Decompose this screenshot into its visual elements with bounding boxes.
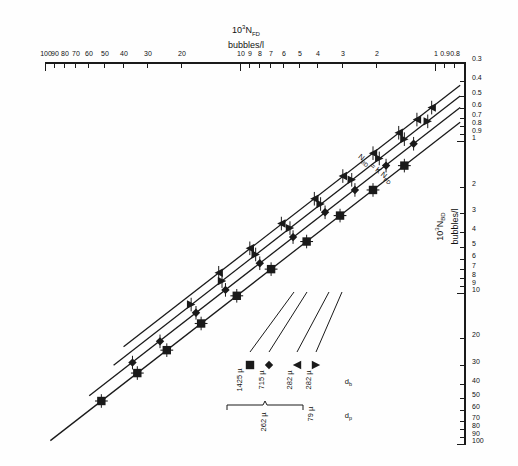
y-tick-label: 40 bbox=[472, 376, 480, 383]
y-tick-label: 90 bbox=[472, 430, 480, 437]
y-tick-label: 0.3 bbox=[472, 55, 482, 62]
x-tick-label: 9 bbox=[248, 50, 252, 57]
legend-marker-square-cross bbox=[243, 358, 257, 372]
y-tick-label: 0.8 bbox=[472, 119, 482, 126]
legend-db-value: 715 µ bbox=[258, 371, 266, 390]
x-title-units: bubbles/l bbox=[228, 40, 264, 50]
x-tick-label: 0.9 bbox=[440, 50, 450, 57]
rotated-figure: 0.80.9123456789102030405060708090100 0.3… bbox=[0, 0, 518, 466]
x-tick-label: 60 bbox=[85, 50, 93, 57]
legend-marker-diamond bbox=[262, 358, 276, 372]
y-tick-label: 60 bbox=[472, 403, 480, 410]
y-tick-label: 0.7 bbox=[472, 110, 482, 117]
y-tick-label: 100 bbox=[472, 437, 484, 444]
x-tick-label: 70 bbox=[72, 50, 80, 57]
y-tick-label: 80 bbox=[472, 422, 480, 429]
legend-dp-value: 79 µ bbox=[307, 407, 315, 422]
legend-header-db: db bbox=[345, 378, 352, 389]
y-tick-label: 70 bbox=[472, 413, 480, 420]
y-tick-label: 5 bbox=[472, 240, 476, 247]
y-tick-label: 2 bbox=[472, 179, 476, 186]
x-tick-label: 80 bbox=[61, 50, 69, 57]
legend-marker-triangle-right bbox=[309, 358, 323, 372]
legend: dbdp282 µ79 µ282 µ715 µ1425 µ262 µ bbox=[46, 62, 466, 444]
x-axis-title: 103NFD bubbles/l bbox=[146, 22, 346, 51]
y-tick-label: 8 bbox=[472, 270, 476, 277]
x-tick-label: 3 bbox=[341, 50, 345, 57]
x-title-sub: FD bbox=[252, 31, 260, 37]
y-tick-label: 3 bbox=[472, 206, 476, 213]
legend-marker-triangle-left bbox=[290, 358, 304, 372]
y-tick-label: 7 bbox=[472, 262, 476, 269]
y-tick-label: 0.6 bbox=[472, 100, 482, 107]
x-tick-label: 0.8 bbox=[450, 50, 460, 57]
y-tick-label: 4 bbox=[472, 225, 476, 232]
y-tick-label: 0.5 bbox=[472, 88, 482, 95]
y-tick-label: 10 bbox=[472, 285, 480, 292]
y-tick-label: 9 bbox=[472, 278, 476, 285]
y-tick-label: 50 bbox=[472, 391, 480, 398]
y-tick bbox=[457, 444, 466, 445]
x-tick-label: 40 bbox=[120, 50, 128, 57]
x-tick-label: 100 bbox=[40, 50, 52, 57]
y-tick-label: 30 bbox=[472, 357, 480, 364]
x-tick-label: 20 bbox=[178, 50, 186, 57]
x-tick-label: 7 bbox=[269, 50, 273, 57]
x-tick-label: 1 bbox=[434, 50, 438, 57]
figure-canvas: 0.80.9123456789102030405060708090100 0.3… bbox=[0, 0, 518, 466]
x-tick-label: 4 bbox=[317, 50, 321, 57]
plot-area: 0.80.9123456789102030405060708090100 0.3… bbox=[46, 62, 466, 444]
x-tick-label: 30 bbox=[144, 50, 152, 57]
x-tick-label: 8 bbox=[258, 50, 262, 57]
y-tick-label: 20 bbox=[472, 331, 480, 338]
x-tick-label: 6 bbox=[282, 50, 286, 57]
legend-db-value: 282 µ bbox=[305, 371, 313, 390]
x-tick-label: 50 bbox=[101, 50, 109, 57]
y-tick-label: 0.4 bbox=[472, 73, 482, 80]
x-tick-label: 5 bbox=[298, 50, 302, 57]
x-tick-label: 2 bbox=[375, 50, 379, 57]
legend-brace bbox=[223, 400, 305, 412]
y-tick-label: 1 bbox=[472, 134, 476, 141]
y-tick-label: 6 bbox=[472, 251, 476, 258]
x-tick-label: 10 bbox=[237, 50, 245, 57]
x-tick-label: 90 bbox=[51, 50, 59, 57]
legend-db-value: 282 µ bbox=[286, 371, 294, 390]
legend-header-dp: dp bbox=[345, 412, 352, 423]
legend-brace-label: 262 µ bbox=[260, 413, 268, 432]
